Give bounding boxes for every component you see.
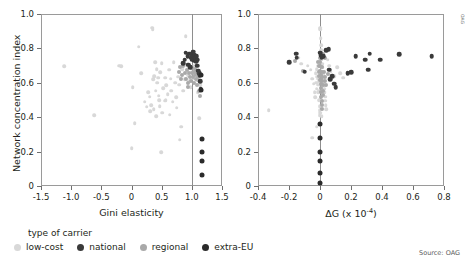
legend-item-low-cost[interactable]: low-cost (14, 242, 63, 252)
x-tick-label: -0.4 (250, 192, 267, 202)
x-tick-label: 0 (129, 192, 134, 202)
data-point (320, 107, 324, 111)
data-point (318, 159, 323, 164)
data-point (170, 89, 174, 93)
legend-item-national[interactable]: national (77, 242, 125, 252)
data-point (310, 136, 314, 140)
data-point (267, 109, 271, 113)
data-point (152, 108, 156, 112)
legend-title: type of carrier (28, 228, 314, 238)
data-point (153, 60, 157, 64)
plot-frame-right (258, 14, 444, 186)
data-point (173, 81, 177, 85)
data-point (397, 52, 402, 57)
data-point (330, 74, 335, 79)
x-tick (162, 186, 163, 190)
data-point (150, 103, 154, 107)
data-point (166, 92, 170, 96)
data-point (172, 60, 176, 64)
data-point (92, 114, 96, 118)
data-point (167, 68, 171, 72)
data-point (184, 35, 188, 39)
data-point (177, 83, 181, 87)
x-tick (382, 186, 383, 190)
data-point (200, 136, 205, 141)
data-point (174, 96, 178, 100)
data-point (319, 43, 323, 47)
data-point (157, 98, 161, 102)
data-point (363, 57, 368, 62)
data-point (321, 54, 326, 59)
data-point (159, 151, 163, 155)
data-point (186, 85, 190, 89)
data-point (349, 70, 354, 75)
data-point (335, 66, 339, 70)
data-point (309, 68, 313, 72)
legend-items: low-costnationalregionalextra-EU (14, 242, 314, 252)
x-tick (258, 186, 259, 190)
data-point (324, 108, 328, 112)
data-point (175, 106, 179, 110)
data-point (133, 121, 137, 125)
data-point (164, 98, 168, 102)
data-point (367, 51, 372, 56)
data-point (195, 63, 200, 68)
data-point (198, 73, 203, 78)
legend-item-label: low-cost (26, 242, 63, 252)
x-tick (413, 186, 414, 190)
y-tick (37, 14, 41, 15)
data-point (155, 67, 159, 71)
data-point (287, 60, 292, 65)
y-tick-label: 0 (229, 181, 251, 191)
data-point (119, 65, 123, 69)
data-point (318, 135, 323, 140)
y-tick (37, 48, 41, 49)
data-point (318, 150, 323, 155)
x-tick (101, 186, 102, 190)
x-tick-label: 0.5 (155, 192, 169, 202)
data-point (200, 172, 205, 177)
data-point (318, 171, 323, 176)
x-axis-label-right: ΔG (x 10-4) (258, 207, 444, 219)
y-tick (254, 14, 258, 15)
data-point (163, 76, 167, 80)
x-tick-label: -0.5 (93, 192, 110, 202)
data-point (171, 100, 175, 104)
data-point (341, 76, 345, 80)
y-tick (254, 48, 258, 49)
x-tick (351, 186, 352, 190)
x-tick-label: 0 (317, 192, 322, 202)
scatter-panel-left: 00.20.40.60.81.0-1.5-1.0-0.500.51.01.5 (41, 14, 222, 186)
y-tick (37, 83, 41, 84)
x-tick (192, 186, 193, 190)
x-tick (444, 186, 445, 190)
data-point (321, 93, 325, 97)
data-point (318, 122, 323, 127)
data-point (318, 180, 323, 185)
x-tick-label: 0.6 (406, 192, 420, 202)
data-point (179, 77, 183, 81)
legend-marker-icon (77, 244, 84, 251)
legend-marker-icon (14, 244, 21, 251)
legend-marker-icon (140, 244, 147, 251)
data-point (310, 77, 314, 81)
x-tick-label: 0.8 (437, 192, 451, 202)
data-point (200, 159, 205, 164)
data-point (165, 84, 169, 88)
data-point (302, 69, 307, 74)
data-point (143, 100, 147, 104)
x-axis-label-left: Gini elasticity (41, 207, 222, 218)
data-point (333, 85, 338, 90)
scatter-panel-right: 00.20.40.60.81.0-0.4-0.200.20.40.60.8 (258, 14, 444, 186)
data-point (199, 87, 204, 92)
legend-item-extra-eu[interactable]: extra-EU (202, 242, 253, 252)
data-point (183, 71, 187, 75)
data-point (154, 89, 158, 93)
data-point (157, 94, 161, 98)
legend: type of carrier low-costnationalregional… (14, 228, 314, 252)
y-tick (254, 83, 258, 84)
data-point (196, 57, 201, 62)
data-point (130, 146, 134, 150)
y-tick-label: 0.2 (229, 147, 251, 157)
legend-item-regional[interactable]: regional (140, 242, 188, 252)
